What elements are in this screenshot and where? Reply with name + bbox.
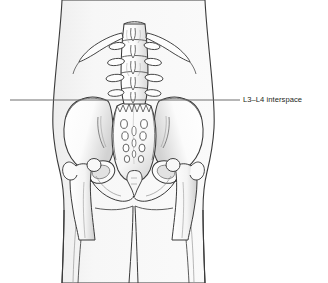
anatomical-figure: L3–L4 interspace <box>0 0 328 283</box>
l3-l4-interspace-label: L3–L4 interspace <box>243 95 302 105</box>
anatomy-illustration <box>0 0 328 283</box>
